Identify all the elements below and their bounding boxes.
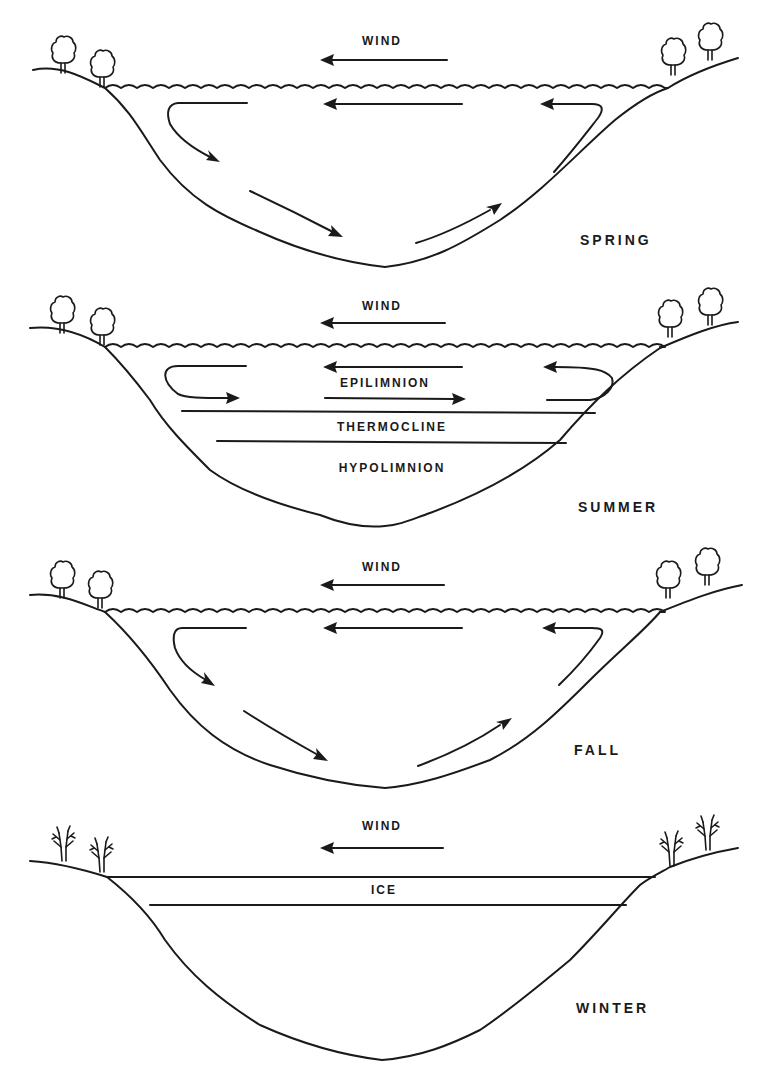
- panel-fall: WIND FALL: [30, 548, 742, 788]
- circulation-arrows: [168, 98, 602, 243]
- circulation-arrows: [174, 622, 603, 766]
- panel-spring: WIND SPRING: [33, 23, 738, 267]
- wind-label: WIND: [362, 819, 402, 833]
- tree-icon: [696, 548, 720, 585]
- lake-turnover-diagram: WIND SPRING WIND: [0, 0, 765, 1074]
- wind-label: WIND: [362, 560, 402, 574]
- tree-icon: [657, 561, 681, 598]
- bare-tree-icon: [52, 826, 75, 861]
- season-label-spring: SPRING: [580, 232, 652, 248]
- wind-arrow-icon: [320, 54, 447, 66]
- tree-icon: [91, 308, 115, 345]
- tree-icon: [659, 300, 683, 337]
- lake-basin-outline: [30, 848, 738, 1060]
- season-label-summer: SUMMER: [578, 499, 658, 515]
- tree-icon: [699, 288, 723, 325]
- layer-label-hypolimnion: HYPOLIMNION: [339, 461, 446, 475]
- wind-arrow-icon: [320, 317, 445, 329]
- diagram-canvas: WIND SPRING WIND: [0, 0, 765, 1074]
- layer-label-ice: ICE: [371, 883, 397, 897]
- layer-label-epilimnion: EPILIMNION: [340, 376, 430, 390]
- season-label-fall: FALL: [574, 742, 621, 758]
- wind-arrow-icon: [320, 842, 443, 854]
- bare-tree-icon: [660, 831, 683, 866]
- water-surface-waves: [105, 85, 668, 88]
- season-label-winter: WINTER: [576, 1000, 649, 1016]
- lake-basin-outline: [30, 585, 742, 788]
- wind-label: WIND: [362, 299, 402, 313]
- wind-arrow-icon: [320, 579, 444, 591]
- water-surface-waves: [105, 609, 665, 612]
- wind-label: WIND: [362, 34, 402, 48]
- water-surface-waves: [105, 344, 665, 347]
- tree-icon: [662, 38, 686, 75]
- tree-icon: [699, 23, 723, 60]
- layer-label-thermocline: THERMOCLINE: [337, 420, 447, 434]
- bare-tree-icon: [90, 837, 113, 872]
- panel-winter: WIND ICE WINTER: [30, 815, 738, 1060]
- tree-icon: [52, 36, 76, 73]
- tree-icon: [51, 561, 75, 598]
- tree-icon: [89, 571, 113, 608]
- bare-tree-icon: [696, 815, 719, 850]
- panel-summer: WIND EPILIMNION THERMOCLINE HYPOLIMNION …: [30, 288, 738, 526]
- tree-icon: [91, 50, 115, 87]
